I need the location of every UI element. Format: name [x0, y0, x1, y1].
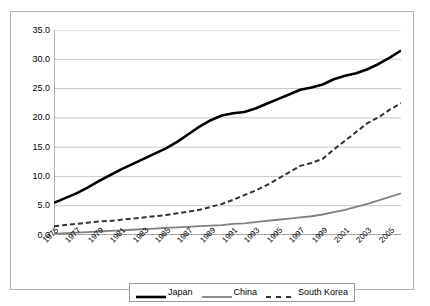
legend-entry-south-korea[interactable]: South Korea [266, 288, 348, 298]
y-axis-tick-label: 25.0 [16, 84, 50, 93]
series-line-japan [54, 51, 401, 203]
legend-swatch-icon [202, 288, 232, 298]
legend-swatch-icon [136, 288, 166, 298]
plot-svg [54, 30, 401, 235]
y-axis-tick-label: 35.0 [16, 26, 50, 35]
legend-label: South Korea [298, 288, 348, 297]
y-axis-tick-label: 15.0 [16, 143, 50, 152]
legend-label: China [234, 288, 258, 297]
plot-area [54, 30, 401, 235]
y-axis: 35.030.025.020.015.010.05.00.0 [11, 30, 50, 235]
y-axis-tick-label: 20.0 [16, 113, 50, 122]
legend-label: Japan [168, 288, 193, 297]
legend-entry-japan[interactable]: Japan [136, 288, 193, 298]
y-axis-tick-label: 30.0 [16, 55, 50, 64]
y-axis-tick-label: 5.0 [16, 201, 50, 210]
chart-legend: JapanChinaSouth Korea [129, 283, 355, 302]
chart-frame: 35.030.025.020.015.010.05.00.0 197519771… [10, 11, 414, 290]
series-line-south-korea [54, 103, 401, 226]
legend-swatch-icon [266, 288, 296, 298]
series-line-china [54, 193, 401, 233]
legend-entry-china[interactable]: China [202, 288, 258, 298]
y-axis-tick-label: 10.0 [16, 172, 50, 181]
x-axis: 1975197719791981198319851987198919911993… [54, 235, 401, 279]
